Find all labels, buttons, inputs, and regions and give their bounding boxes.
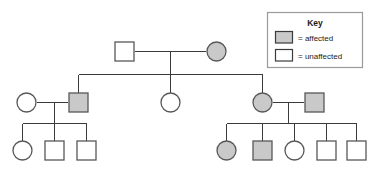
individual-III-7-unaffected-male[interactable] [317,141,336,160]
individual-III-5-affected-male[interactable] [253,141,272,160]
individual-II-5-affected-male[interactable] [305,93,324,112]
individual-I-2-affected-female[interactable] [207,42,226,61]
individual-III-4-affected-female[interactable] [217,141,236,160]
legend-affected-label: = affected [298,34,333,43]
individual-II-2-affected-male[interactable] [69,93,88,112]
individual-III-1-unaffected-female[interactable] [13,141,32,160]
pedigree-chart-page: Key = affected = unaffected [0,0,374,172]
generation-3-group [13,141,366,160]
unaffected-swatch-icon [276,50,293,62]
individual-III-6-unaffected-female[interactable] [285,141,304,160]
legend-box: Key = affected = unaffected [268,13,363,68]
individual-II-1-unaffected-female[interactable] [17,93,36,112]
individual-III-3-unaffected-male[interactable] [77,141,96,160]
individual-III-2-unaffected-male[interactable] [45,141,64,160]
individual-II-4-affected-female[interactable] [253,93,272,112]
affected-swatch-icon [276,32,293,44]
legend-unaffected-label: = unaffected [298,52,342,61]
individual-II-3-unaffected-female[interactable] [161,93,180,112]
pedigree-diagram: Key = affected = unaffected [0,0,374,172]
individual-III-8-unaffected-male[interactable] [347,141,366,160]
legend-title: Key [307,18,323,28]
individual-I-1-unaffected-male[interactable] [115,42,134,61]
